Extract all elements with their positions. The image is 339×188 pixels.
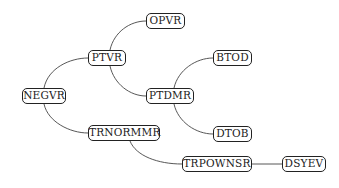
edge-ptdmr-btod xyxy=(174,58,213,88)
edge-negvr-trnormmr xyxy=(44,104,88,133)
edge-trnormmr-trpownsr xyxy=(130,141,182,164)
edge-ptvr-ptdmr xyxy=(110,66,146,96)
node-dtob: DTOB xyxy=(213,126,252,142)
node-trpownsr: TRPOWNSR xyxy=(182,156,252,172)
node-ptvr: PTVR xyxy=(88,50,126,66)
node-opvr: OPVR xyxy=(146,13,185,29)
edge-ptvr-opvr xyxy=(110,21,146,50)
node-btod: BTOD xyxy=(213,50,252,66)
node-ptdmr: PTDMR xyxy=(146,88,194,104)
edge-negvr-ptvr xyxy=(44,58,88,88)
edge-ptdmr-dtob xyxy=(174,104,213,134)
node-negvr: NEGVR xyxy=(22,88,66,104)
node-trnormmr: TRNORMMR xyxy=(88,125,160,141)
node-dsyev: DSYEV xyxy=(282,156,326,172)
